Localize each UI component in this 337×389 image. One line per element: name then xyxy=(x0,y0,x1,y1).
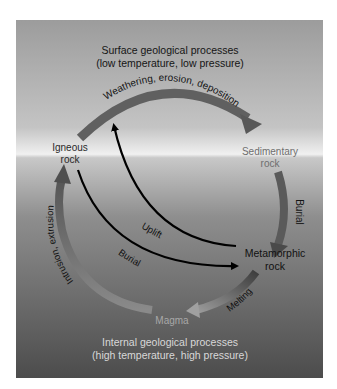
magma-label: Magma xyxy=(155,315,189,326)
internal-title-line2: (high temperature, high pressure) xyxy=(92,349,248,361)
metamorphic-rock-label-line1: Metamorphic xyxy=(245,247,306,259)
sedimentary-rock-label-line1: Sedimentary xyxy=(242,146,298,157)
internal-title-line1: Internal geological processes xyxy=(102,336,238,348)
diagram-canvas: Surface geological processes (low temper… xyxy=(0,0,337,389)
surface-title-line2: (low temperature, low pressure) xyxy=(96,57,244,69)
igneous-rock-label-line1: Igneous xyxy=(52,142,88,153)
surface-title-line1: Surface geological processes xyxy=(101,44,238,56)
igneous-rock-label-line2: rock xyxy=(61,154,81,165)
rock-cycle-diagram: Surface geological processes (low temper… xyxy=(0,0,337,389)
metamorphic-rock-label-line2: rock xyxy=(265,260,286,272)
burial-right-label: Burial xyxy=(294,199,305,225)
sedimentary-rock-label-line2: rock xyxy=(261,158,281,169)
